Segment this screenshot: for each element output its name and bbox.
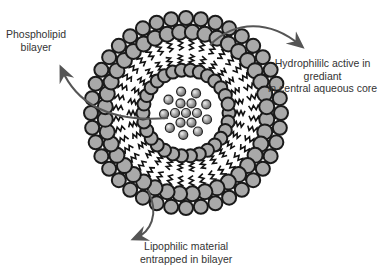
label-line: Phospholipid — [6, 28, 66, 41]
label-phospholipid-bilayer: Phospholipid bilayer — [6, 28, 66, 53]
label-line: in central aqueous core — [268, 82, 377, 95]
label-line: grediant — [268, 70, 377, 83]
label-hydrophilic-active: Hydrophililc active in grediant in centr… — [268, 57, 377, 95]
label-line: bilayer — [6, 41, 66, 54]
label-line: Lipophilic material — [140, 240, 232, 253]
label-line: Hydrophililc active in — [268, 57, 377, 70]
aqueous-core-particles — [160, 87, 212, 139]
label-lipophilic-material: Lipophilic material entrapped in bilayer — [140, 240, 232, 265]
label-line: entrapped in bilayer — [140, 253, 232, 266]
